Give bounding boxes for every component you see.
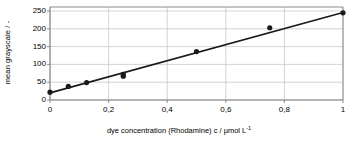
data-point [340, 10, 345, 15]
data-point [194, 49, 199, 54]
x-axis-title-text: dye concentration (Rhodamine) c / µmol L [107, 126, 246, 135]
data-point [66, 84, 71, 89]
chart-container: mean grayscale / - 050100150200250 00,20… [0, 0, 358, 145]
data-point [84, 80, 89, 85]
data-point [267, 25, 272, 30]
data-point [121, 72, 126, 77]
data-point [47, 90, 52, 95]
x-axis-title-exponent: -1 [246, 125, 251, 131]
plot-area [0, 0, 358, 145]
x-axis-title: dye concentration (Rhodamine) c / µmol L… [0, 126, 358, 135]
